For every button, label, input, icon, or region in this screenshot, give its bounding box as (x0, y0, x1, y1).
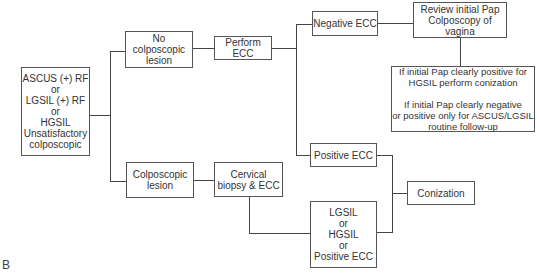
connector (377, 155, 392, 156)
connector (296, 155, 310, 156)
connector (378, 23, 413, 24)
negative-ecc-node: Negative ECC (312, 11, 378, 36)
lgsil-hgsil-node: LGSIL or HGSIL or Positive ECC (310, 201, 377, 268)
start-node: ASCUS (+) RF or LGSIL (+) RF or HGSIL Un… (21, 67, 90, 156)
connector (110, 51, 111, 182)
review-node: Review initial Pap Colposcopy of vagina (413, 2, 507, 38)
connector (272, 48, 296, 49)
connector (110, 181, 126, 182)
no-lesion-node: No colposcopic lesion (125, 31, 193, 68)
perform-ecc-node: Perform ECC (214, 36, 272, 60)
connector (377, 232, 392, 233)
conization-node: Conization (407, 181, 475, 205)
positive-ecc-node: Positive ECC (310, 143, 377, 167)
connector (249, 197, 250, 233)
connector (296, 24, 312, 25)
instructions-node: If initial Pap clearly positive for HGSI… (391, 66, 535, 132)
connector (296, 24, 297, 155)
connector (110, 51, 125, 52)
lesion-node: Colposcopic lesion (126, 162, 194, 198)
connector (392, 155, 393, 233)
connector (193, 48, 214, 49)
connector (90, 115, 110, 116)
connector (249, 233, 310, 234)
biopsy-node: Cervical biopsy & ECC (214, 162, 283, 197)
connector (194, 180, 214, 181)
connector (392, 193, 407, 194)
connector (460, 38, 461, 66)
panel-label: B (2, 258, 10, 272)
